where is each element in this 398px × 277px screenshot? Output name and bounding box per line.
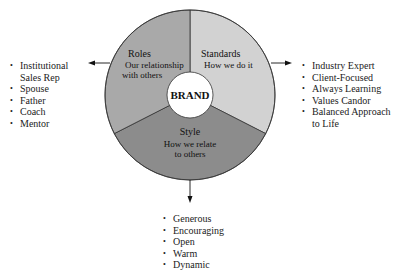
list-item: Spouse bbox=[10, 83, 100, 95]
list-item: Mentor bbox=[10, 118, 100, 130]
list-item: Institutional bbox=[10, 60, 100, 72]
list-item: Industry Expert bbox=[302, 60, 398, 72]
list-item: Warm bbox=[163, 248, 253, 260]
style-subtitle-line1: How we relate bbox=[164, 139, 216, 149]
list-item: Open bbox=[163, 236, 253, 248]
brand-label: BRAND bbox=[170, 89, 209, 101]
list-item: Coach bbox=[10, 106, 100, 118]
list-item: Father bbox=[10, 95, 100, 107]
arrow-right-icon bbox=[271, 61, 292, 66]
list-item: Balanced Approach bbox=[302, 106, 398, 118]
list-item: Dynamic bbox=[163, 259, 253, 271]
list-item-continuation: to Life bbox=[302, 118, 398, 130]
list-item: Client-Focused bbox=[302, 72, 398, 84]
roles-subtitle-line2: with others bbox=[122, 70, 163, 80]
list-item: Generous bbox=[163, 213, 253, 225]
roles-title: Roles bbox=[128, 48, 151, 59]
arrow-down-icon bbox=[188, 180, 193, 203]
roles-subtitle-line1: Our relationship bbox=[125, 60, 184, 70]
style-subtitle-line2: to others bbox=[174, 149, 206, 159]
standards-title: Standards bbox=[201, 48, 241, 59]
list-item: Always Learning bbox=[302, 83, 398, 95]
standards-list: Industry Expert Client-Focused Always Le… bbox=[302, 60, 398, 129]
style-list: Generous Encouraging Open Warm Dynamic bbox=[163, 213, 253, 271]
standards-subtitle-line1: How we do it bbox=[204, 60, 253, 70]
list-item: Values Candor bbox=[302, 95, 398, 107]
roles-list: Institutional Sales Rep Spouse Father Co… bbox=[10, 60, 100, 129]
style-title: Style bbox=[180, 126, 201, 137]
list-item-continuation: Sales Rep bbox=[10, 72, 100, 84]
list-item: Encouraging bbox=[163, 225, 253, 237]
